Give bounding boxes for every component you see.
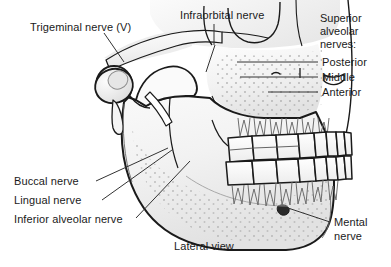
label-inferior-alveolar-nerve: Inferior alveolar nerve bbox=[14, 213, 123, 226]
label-trigeminal-nerve: Trigeminal nerve (V) bbox=[30, 21, 131, 34]
lower-incisor-cent bbox=[344, 156, 352, 179]
label-lingual-nerve: Lingual nerve bbox=[14, 194, 81, 207]
anatomy-figure: Trigeminal nerve (V) Infraorbital nerve … bbox=[0, 0, 391, 267]
maxilla-stipple bbox=[216, 48, 322, 116]
condylar-neck bbox=[112, 100, 123, 134]
label-mental-nerve-line1: Mental bbox=[334, 216, 368, 229]
label-posterior: Posterior bbox=[322, 56, 367, 69]
label-superior-alveolar-head-line2: alveolar bbox=[320, 25, 359, 38]
label-anterior: Anterior bbox=[322, 86, 361, 99]
lower-molar-1 bbox=[276, 159, 300, 183]
lower-premolar-2 bbox=[298, 158, 316, 182]
lower-molar-2 bbox=[252, 160, 278, 184]
zygomatic-arch bbox=[106, 31, 222, 71]
label-mental-nerve-line2: nerve bbox=[334, 230, 362, 243]
label-middle: Middle bbox=[322, 71, 355, 84]
label-infraorbital-nerve: Infraorbital nerve bbox=[180, 9, 264, 22]
label-superior-alveolar-head-line3: nerves: bbox=[320, 38, 356, 51]
upper-premolar-2 bbox=[298, 133, 316, 158]
mental-foramen bbox=[277, 205, 289, 215]
figure-caption-lateral-view: Lateral view bbox=[174, 240, 234, 253]
upper-incisor-cent bbox=[344, 132, 352, 155]
label-buccal-nerve: Buccal nerve bbox=[14, 175, 79, 188]
label-superior-alveolar-head-line1: Superior bbox=[320, 12, 362, 25]
lower-molar-3 bbox=[226, 161, 254, 185]
